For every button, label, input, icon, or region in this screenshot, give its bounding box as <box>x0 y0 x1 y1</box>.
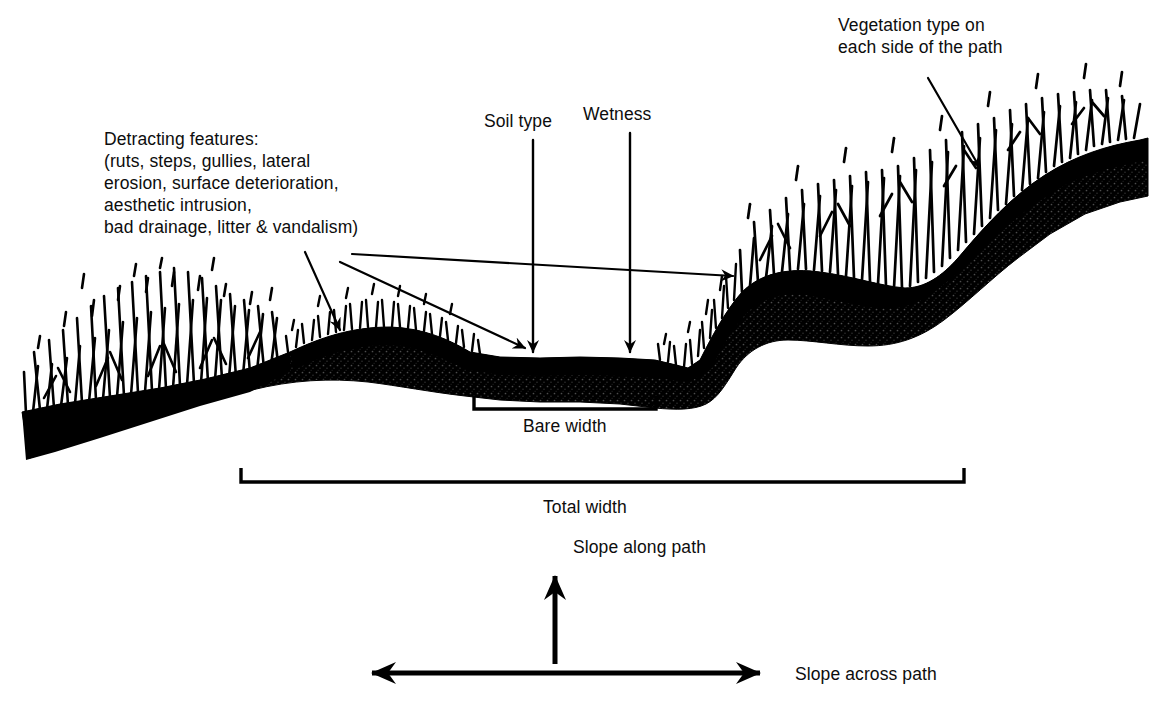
slope-across-path-label: Slope across path <box>795 663 937 685</box>
wetness-label: Wetness <box>583 103 651 125</box>
soil-type-label: Soil type <box>484 110 552 132</box>
detracting-features-label: Detracting features: (ruts, steps, gulli… <box>104 128 358 238</box>
slope-along-path-label: Slope along path <box>573 536 706 558</box>
diagram-canvas: Detracting features: (ruts, steps, gulli… <box>0 0 1150 709</box>
path-cross-section-illustration <box>0 0 1150 709</box>
vegetation-type-label: Vegetation type on each side of the path <box>838 14 1003 58</box>
total-width-label: Total width <box>543 496 627 518</box>
page-background <box>0 0 1150 709</box>
bare-width-label: Bare width <box>523 415 607 437</box>
